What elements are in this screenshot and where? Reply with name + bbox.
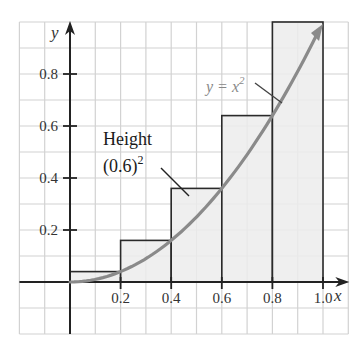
bar-5 [272, 22, 323, 282]
y-axis-label: y [49, 23, 59, 42]
annotation-height-label: Height [103, 129, 152, 149]
bar-4 [222, 116, 273, 282]
y-tick-label: 0.6 [39, 118, 58, 134]
x-tick-label: 0.6 [212, 290, 231, 306]
curve-label: y = x2 [204, 74, 245, 96]
y-tick-label: 0.2 [39, 222, 58, 238]
x-axis-label: x [333, 286, 342, 305]
y-tick-label: 0.8 [39, 66, 58, 82]
riemann-sum-chart: 0.20.40.60.81.00.20.40.60.8 y x Height (… [0, 0, 359, 344]
x-tick-label: 0.4 [162, 290, 181, 306]
x-tick-label: 1.0 [314, 290, 333, 306]
annotation-height-value: (0.6)2 [103, 153, 144, 177]
curve-label-annotation: y = x2 [204, 74, 282, 103]
x-tick-label: 0.2 [111, 290, 130, 306]
x-tick-label: 0.8 [263, 290, 282, 306]
y-tick-label: 0.4 [39, 170, 58, 186]
